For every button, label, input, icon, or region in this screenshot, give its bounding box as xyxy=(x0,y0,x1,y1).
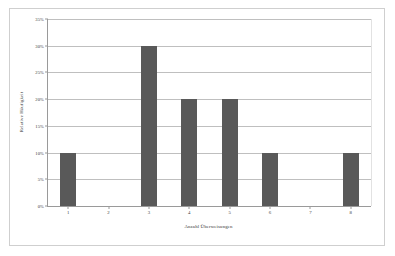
x-tick-mark xyxy=(68,206,69,209)
x-tick-mark xyxy=(148,206,149,209)
y-tick-label: 20% xyxy=(35,97,44,102)
x-tick-label: 4 xyxy=(188,210,190,215)
x-tick-mark xyxy=(270,206,271,209)
y-tick-label: 35% xyxy=(35,17,44,22)
x-tick-slot: 7 xyxy=(290,19,330,206)
y-tick-label: 5% xyxy=(38,177,44,182)
plot-area: 0%5%10%15%20%25%30%35% 12345678 xyxy=(47,19,371,207)
x-tick-mark xyxy=(189,206,190,209)
y-tick-label: 10% xyxy=(35,150,44,155)
x-tick-slot: 1 xyxy=(48,19,88,206)
x-tick-label: 5 xyxy=(228,210,230,215)
plot-right-edge xyxy=(371,19,372,206)
x-tick-label: 7 xyxy=(309,210,311,215)
x-tick-mark xyxy=(310,206,311,209)
x-tick-slot: 5 xyxy=(210,19,250,206)
chart-figure: Relative Häufigkeit 0%5%10%15%20%25%30%3… xyxy=(0,0,395,256)
x-tick-slot: 8 xyxy=(331,19,371,206)
x-tick-slot: 3 xyxy=(129,19,169,206)
y-axis-title: Relative Häufigkeit xyxy=(19,92,24,133)
gridline xyxy=(48,206,371,207)
x-tick-label: 2 xyxy=(107,210,109,215)
x-tick-slot: 2 xyxy=(88,19,128,206)
y-tick-label: 0% xyxy=(38,204,44,209)
x-tick-label: 8 xyxy=(350,210,352,215)
x-tick-mark xyxy=(229,206,230,209)
x-tick-label: 6 xyxy=(269,210,271,215)
x-tick-label: 3 xyxy=(148,210,150,215)
x-tick-slot: 4 xyxy=(169,19,209,206)
y-tick-label: 30% xyxy=(35,43,44,48)
y-tick-label: 15% xyxy=(35,123,44,128)
x-axis-title: Anzahl Überweisungen xyxy=(47,224,370,229)
x-tick-mark xyxy=(350,206,351,209)
x-tick-slot: 6 xyxy=(250,19,290,206)
x-tick-mark xyxy=(108,206,109,209)
y-tick-label: 25% xyxy=(35,70,44,75)
x-tick-label: 1 xyxy=(67,210,69,215)
